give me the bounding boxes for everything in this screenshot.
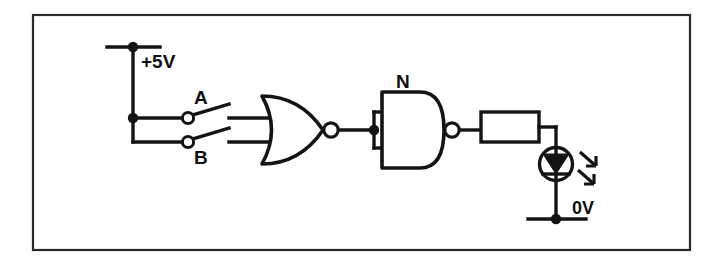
nor-gate-output-bubble	[324, 123, 338, 137]
resistor-body	[481, 112, 539, 142]
switch-b-blade[interactable]	[193, 128, 229, 139]
nand-gate-output-bubble	[445, 123, 459, 137]
switch-b-pivot[interactable]	[182, 136, 193, 147]
resistor	[481, 112, 556, 142]
switch-a-pivot[interactable]	[182, 112, 193, 123]
switch-b-group[interactable]	[133, 128, 271, 148]
circuit-schematic-canvas	[0, 0, 714, 265]
nor-gate	[262, 96, 374, 164]
nor-gate-body	[262, 96, 323, 164]
led-emission-arrows	[578, 152, 596, 184]
nand-gate-label: N	[396, 72, 410, 91]
circuit-diagram: +5V A B N 0V	[0, 0, 714, 265]
supply-voltage-label: +5V	[141, 52, 175, 71]
nand-input-junction-dot	[369, 125, 379, 135]
led-emission-arrow-1	[580, 152, 596, 166]
supply-junction-dot-top	[128, 42, 138, 52]
nand-gate-body	[382, 92, 444, 168]
ground-junction-dot	[551, 214, 561, 224]
led-emission-arrow-2	[578, 170, 594, 184]
nand-gate	[369, 92, 481, 168]
ground-voltage-label: 0V	[572, 199, 594, 217]
switch-b-label: B	[194, 148, 208, 167]
switch-a-label: A	[194, 88, 208, 107]
